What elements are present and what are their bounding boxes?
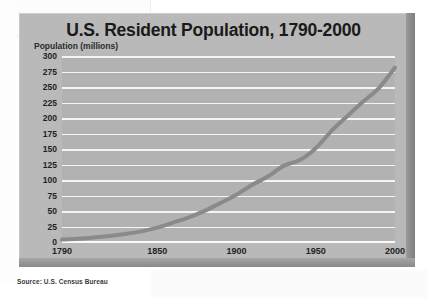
x-axis-tick-label: 2000 (385, 246, 405, 256)
paper-edge-bottom (150, 270, 428, 298)
x-axis-tick-label: 1790 (52, 246, 72, 256)
panel-bevel-right (406, 13, 415, 267)
chart-title: U.S. Resident Population, 1790-2000 (20, 20, 407, 41)
x-axis-tick-label: 1900 (226, 246, 246, 256)
source-note: Source: U.S. Census Bureau (17, 278, 108, 285)
y-axis-tick-label: 50 (48, 206, 57, 216)
y-axis-tick-label: 225 (43, 98, 57, 108)
panel-face: U.S. Resident Population, 1790-2000 Popu… (19, 13, 406, 258)
y-axis-tick-label: 250 (43, 82, 57, 92)
y-axis-tick-label: 75 (48, 191, 57, 201)
x-axis-tick-label: 1950 (306, 246, 326, 256)
y-axis-tick-label: 275 (43, 67, 57, 77)
y-axis-tick-label: 100 (43, 175, 57, 185)
plot-area-wrapper: 3002752502252001751501251007550250 17901… (62, 56, 395, 242)
y-axis-tick-label: 125 (43, 160, 57, 170)
y-axis-tick-label: 175 (43, 129, 57, 139)
y-axis-title: Population (millions) (34, 41, 118, 51)
paper-edge-left (0, 0, 16, 284)
panel-bevel-bottom (19, 258, 415, 267)
y-axis-tick-label: 150 (43, 144, 57, 154)
chart-panel: U.S. Resident Population, 1790-2000 Popu… (19, 13, 415, 267)
x-axis-tick-label: 1850 (147, 246, 167, 256)
y-axis-tick-label: 25 (48, 222, 57, 232)
population-line-series (62, 56, 395, 242)
y-axis-tick-label: 300 (43, 51, 57, 61)
y-axis-tick-label: 200 (43, 113, 57, 123)
